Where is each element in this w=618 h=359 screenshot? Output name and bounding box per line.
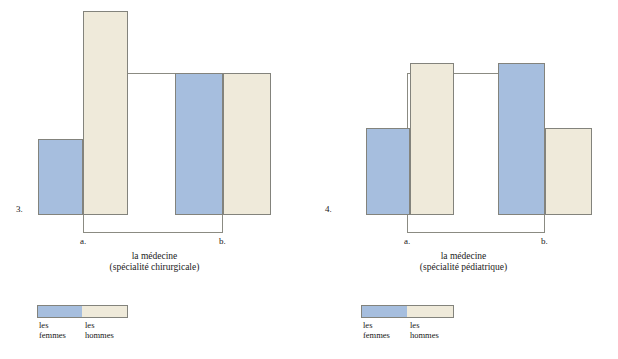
chart-3-legend-swatches xyxy=(37,305,128,318)
chart-4-caption-line2: (spécialité pédiatrique) xyxy=(309,262,618,273)
worksheet-page: 3. a. b. la médecine (spécialité chirurg… xyxy=(0,0,618,359)
chart-3-legend-label-femmes: les femmes xyxy=(39,320,66,340)
chart-4-legend-swatch-femmes xyxy=(362,306,407,317)
exercise-4: 4. a. b. la médecine (spécialité pédiatr… xyxy=(309,0,618,359)
chart-4-bar-b-hommes xyxy=(545,128,592,215)
chart-4-plot xyxy=(309,0,618,245)
chart-3-legend-swatch-femmes xyxy=(38,306,82,317)
chart-4-legend-label-femmes: les femmes xyxy=(363,320,390,340)
chart-4-caption-line1: la médecine xyxy=(441,251,487,261)
chart-3-caption: la médecine (spécialité chirurgicale) xyxy=(0,251,309,273)
chart-4-bar-b-femmes xyxy=(498,63,545,215)
chart-3-legend-label-hommes: les hommes xyxy=(85,320,114,340)
chart-3-bar-a-femmes xyxy=(38,139,83,215)
chart-4-legend-label-hommes: les hommes xyxy=(410,320,439,340)
chart-4-bar-a-femmes xyxy=(366,128,410,215)
chart-4-bar-a-hommes xyxy=(410,63,454,215)
chart-4-tick-a: a. xyxy=(404,236,410,246)
chart-3-bar-a-hommes xyxy=(83,11,128,215)
chart-3-bar-b-hommes xyxy=(223,73,271,215)
chart-3-caption-line1: la médecine xyxy=(132,251,178,261)
chart-3-legend-swatch-hommes xyxy=(82,306,127,317)
chart-3-caption-line2: (spécialité chirurgicale) xyxy=(0,262,309,273)
chart-3-tick-b: b. xyxy=(219,236,226,246)
chart-4-legend-swatch-hommes xyxy=(407,306,453,317)
exercise-3: 3. a. b. la médecine (spécialité chirurg… xyxy=(0,0,309,359)
chart-3-bar-b-femmes xyxy=(175,73,223,215)
chart-4-tick-b: b. xyxy=(541,236,548,246)
chart-3-tick-a: a. xyxy=(80,236,86,246)
chart-4-legend-swatches xyxy=(361,305,454,318)
chart-3-plot xyxy=(0,0,309,245)
chart-4-caption: la médecine (spécialité pédiatrique) xyxy=(309,251,618,273)
